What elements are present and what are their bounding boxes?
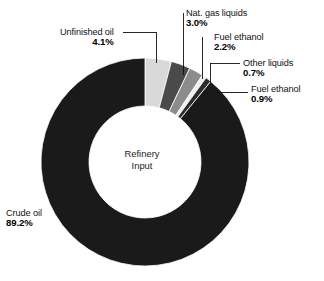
callout-value-crude-oil: 89.2%: [6, 218, 42, 229]
callout-fuel-ethanol-low: Fuel ethanol 0.9%: [251, 84, 300, 105]
center-label-line1: Refinery: [96, 148, 188, 160]
callout-value-other-liquids: 0.7%: [243, 68, 293, 79]
callout-crude-oil: Crude oil 89.2%: [6, 208, 42, 229]
callout-value-nat-gas-liquids: 3.0%: [186, 18, 247, 29]
callout-value-unfinished-oil: 4.1%: [60, 37, 114, 48]
callout-fuel-ethanol-top: Fuel ethanol 2.2%: [214, 32, 263, 53]
callout-other-liquids: Other liquids 0.7%: [243, 58, 293, 79]
leader-line-other-liquids: [210, 63, 240, 85]
callout-value-fuel-ethanol-top: 2.2%: [214, 42, 263, 53]
callout-value-fuel-ethanol-low: 0.9%: [251, 94, 300, 105]
callout-nat-gas-liquids: Nat. gas liquids 3.0%: [186, 8, 247, 29]
donut-center-label: Refinery Input: [96, 148, 188, 172]
callout-unfinished-oil: Unfinished oil 4.1%: [60, 27, 114, 48]
donut-chart: Unfinished oil 4.1% Nat. gas liquids 3.0…: [0, 0, 324, 281]
donut-chart-svg: [0, 0, 324, 281]
center-label-line2: Input: [96, 160, 188, 172]
